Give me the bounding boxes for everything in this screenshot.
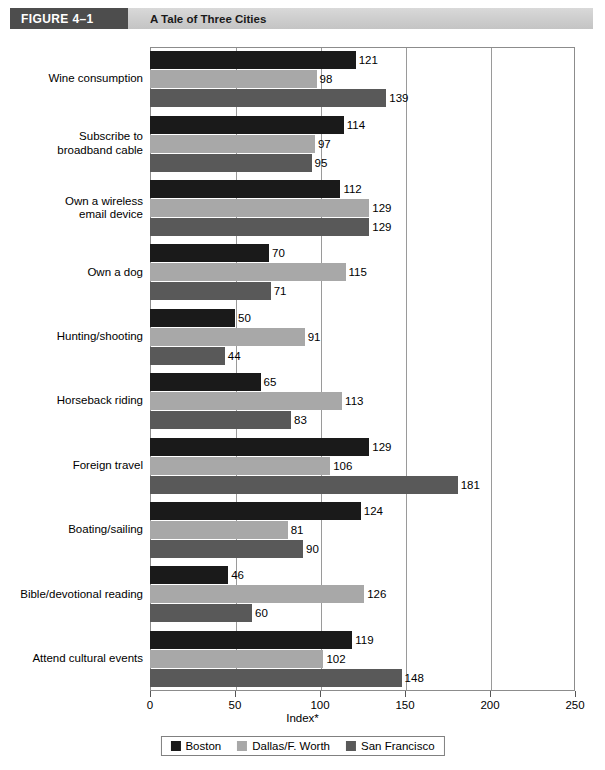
bar-value-label: 126 bbox=[367, 585, 386, 603]
category-label: Wine consumption bbox=[8, 72, 143, 86]
bar bbox=[150, 116, 344, 134]
bar-value-label: 124 bbox=[364, 502, 383, 520]
bar bbox=[150, 476, 458, 494]
bar-value-label: 91 bbox=[308, 328, 321, 346]
category-label: Hunting/shooting bbox=[8, 330, 143, 344]
bar bbox=[150, 135, 315, 153]
legend-label: Boston bbox=[185, 740, 221, 752]
bar bbox=[150, 457, 330, 475]
bar bbox=[150, 521, 288, 539]
bar-value-label: 97 bbox=[318, 135, 331, 153]
bar-value-label: 70 bbox=[272, 244, 285, 262]
category-label: Own a dog bbox=[8, 266, 143, 280]
bar-value-label: 102 bbox=[326, 650, 345, 668]
bar bbox=[150, 263, 346, 281]
bar bbox=[150, 392, 342, 410]
legend-label: San Francisco bbox=[361, 740, 435, 752]
bar bbox=[150, 328, 305, 346]
category-label: Boating/sailing bbox=[8, 523, 143, 537]
bar-value-label: 181 bbox=[461, 476, 480, 494]
bar bbox=[150, 502, 361, 520]
bar-value-label: 119 bbox=[355, 631, 373, 649]
category-label: Attend cultural events bbox=[8, 652, 143, 666]
bar bbox=[150, 199, 369, 217]
bar bbox=[150, 347, 225, 365]
bar-value-label: 50 bbox=[238, 309, 251, 327]
x-tick-label: 50 bbox=[229, 699, 242, 711]
category-label: Own a wireless email device bbox=[8, 195, 143, 222]
legend-item[interactable]: San Francisco bbox=[346, 740, 435, 752]
x-axis-title: Index* bbox=[0, 712, 605, 724]
bar-value-label: 46 bbox=[231, 566, 244, 584]
bar bbox=[150, 373, 261, 391]
legend-swatch-icon bbox=[170, 741, 180, 751]
legend-item[interactable]: Boston bbox=[170, 740, 221, 752]
bar bbox=[150, 309, 235, 327]
bar bbox=[150, 411, 291, 429]
bar-value-label: 60 bbox=[255, 604, 268, 622]
bar-value-label: 121 bbox=[359, 51, 378, 69]
bar bbox=[150, 180, 340, 198]
bar-value-label: 44 bbox=[228, 347, 241, 365]
bar bbox=[150, 70, 317, 88]
x-tick-label: 100 bbox=[310, 699, 329, 711]
legend-item[interactable]: Dallas/F. Worth bbox=[237, 740, 330, 752]
bar bbox=[150, 154, 312, 172]
x-tick-mark bbox=[405, 691, 406, 697]
legend-label: Dallas/F. Worth bbox=[252, 740, 330, 752]
bar-value-label: 148 bbox=[405, 669, 424, 687]
bar bbox=[150, 244, 269, 262]
x-tick-label: 0 bbox=[147, 699, 153, 711]
bar-value-label: 113 bbox=[345, 392, 363, 410]
bar-value-label: 83 bbox=[294, 411, 307, 429]
category-label: Bible/devotional reading bbox=[8, 588, 143, 602]
bar bbox=[150, 51, 356, 69]
bar-value-label: 112 bbox=[343, 180, 361, 198]
category-label: Foreign travel bbox=[8, 459, 143, 473]
bar bbox=[150, 540, 303, 558]
bar-value-label: 129 bbox=[372, 218, 391, 236]
x-tick-mark bbox=[490, 691, 491, 697]
bar bbox=[150, 585, 364, 603]
x-tick-label: 200 bbox=[480, 699, 499, 711]
bar bbox=[150, 631, 352, 649]
bar-value-label: 98 bbox=[320, 70, 333, 88]
bar-value-label: 115 bbox=[349, 263, 367, 281]
bar-value-label: 129 bbox=[372, 438, 391, 456]
legend-swatch-icon bbox=[237, 741, 247, 751]
category-label: Horseback riding bbox=[8, 394, 143, 408]
bar-value-label: 129 bbox=[372, 199, 391, 217]
bar bbox=[150, 604, 252, 622]
bar bbox=[150, 669, 402, 687]
category-label: Subscribe to broadband cable bbox=[8, 130, 143, 157]
chart-legend: BostonDallas/F. WorthSan Francisco bbox=[160, 736, 444, 756]
bar bbox=[150, 282, 271, 300]
gridline-150 bbox=[406, 48, 407, 690]
bar bbox=[150, 438, 369, 456]
bar-value-label: 81 bbox=[291, 521, 304, 539]
x-tick-mark bbox=[235, 691, 236, 697]
bar bbox=[150, 650, 323, 668]
x-tick-mark bbox=[575, 691, 576, 697]
x-tick-mark bbox=[150, 691, 151, 697]
x-tick-label: 150 bbox=[395, 699, 414, 711]
bar-value-label: 106 bbox=[333, 457, 352, 475]
chart-container: Wine consumptionSubscribe to broadband c… bbox=[0, 0, 605, 770]
gridline-200 bbox=[491, 48, 492, 690]
bar-value-label: 114 bbox=[347, 116, 365, 134]
bar bbox=[150, 89, 386, 107]
bar-value-label: 65 bbox=[264, 373, 277, 391]
bar-value-label: 95 bbox=[315, 154, 328, 172]
bar bbox=[150, 218, 369, 236]
bar bbox=[150, 566, 228, 584]
x-tick-label: 250 bbox=[565, 699, 584, 711]
bar-value-label: 71 bbox=[274, 282, 287, 300]
bar-value-label: 90 bbox=[306, 540, 319, 558]
x-tick-mark bbox=[320, 691, 321, 697]
bar-value-label: 139 bbox=[389, 89, 408, 107]
legend-swatch-icon bbox=[346, 741, 356, 751]
